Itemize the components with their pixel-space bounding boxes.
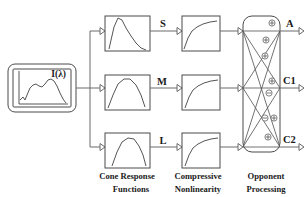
cone-to-nonlinearity-wires	[150, 28, 182, 151]
output-label-c2: C2	[283, 134, 296, 145]
output-label-a: A	[286, 18, 294, 29]
input-label: I(λ)	[51, 69, 66, 80]
sign-marker-a-3	[262, 53, 268, 59]
arrowhead-opp-l	[238, 144, 243, 151]
caption-nonlinearity-line1: Compressive	[174, 171, 221, 181]
opponent-output-wires	[280, 28, 304, 151]
arrowhead-opp-m	[238, 85, 243, 92]
sign-marker-c2-minus	[262, 115, 268, 121]
output-label-c1: C1	[283, 75, 296, 86]
arrowhead-out-c1	[299, 85, 304, 92]
sign-marker-a-2	[263, 37, 269, 43]
input-block: I(λ)	[8, 64, 76, 112]
sign-marker-c2-plus-1	[271, 115, 277, 121]
opponent-box	[243, 16, 280, 152]
color-vision-diagram: I(λ) S M L	[0, 0, 308, 197]
sign-marker-c2-plus-2	[265, 134, 271, 140]
sign-marker-a-1	[269, 20, 275, 26]
caption-cone-line2: Functions	[113, 184, 150, 194]
caption-opponent-line2: Processing	[247, 184, 287, 194]
signal-label-s: S	[160, 18, 166, 29]
arrowhead-opp-s	[238, 28, 243, 35]
cone-response-boxes	[105, 16, 150, 168]
caption-opponent-line1: Opponent	[248, 171, 285, 181]
sign-marker-c1-plus	[269, 78, 275, 84]
arrowhead-l-in	[100, 144, 105, 151]
sign-marker-c1-minus	[266, 90, 272, 96]
cone-box-m	[105, 75, 150, 110]
figure-canvas: I(λ) S M L	[0, 0, 308, 197]
arrowhead-n3-in	[177, 144, 182, 151]
arrowhead-out-c2	[299, 144, 304, 151]
caption-cone-line1: Cone Response	[99, 171, 155, 181]
arrowhead-s-in	[100, 28, 105, 35]
cone-box-s	[105, 16, 150, 51]
arrowhead-n1-in	[177, 28, 182, 35]
arrowhead-m-in	[100, 85, 105, 92]
caption-nonlinearity-line2: Nonlinearity	[175, 184, 222, 194]
stage-captions: Cone Response Functions Compressive Nonl…	[99, 171, 286, 194]
input-fanout-wires	[76, 28, 105, 151]
nonlinearity-boxes	[182, 16, 220, 168]
signal-label-m: M	[157, 76, 167, 87]
nonlinearity-to-opponent-wires	[220, 28, 243, 151]
signal-label-l: L	[159, 135, 166, 146]
arrowhead-n2-in	[177, 85, 182, 92]
opponent-processing-block	[243, 16, 280, 152]
arrowhead-out-a	[299, 28, 304, 35]
